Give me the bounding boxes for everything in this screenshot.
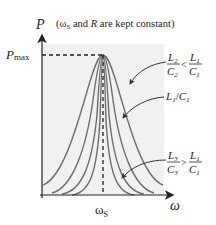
y-axis-label: P bbox=[35, 17, 45, 32]
svg-text:C1: C1 bbox=[189, 163, 200, 177]
pmax-label: Pmax bbox=[5, 47, 30, 62]
svg-text:<: < bbox=[181, 59, 187, 70]
svg-text:L2: L2 bbox=[167, 51, 178, 65]
x-axis-label: ω bbox=[170, 198, 180, 213]
svg-text:>: > bbox=[181, 157, 187, 168]
svg-text:C2: C2 bbox=[167, 65, 178, 79]
svg-text:L3: L3 bbox=[167, 149, 178, 163]
ws-label: ωS bbox=[95, 202, 108, 219]
svg-text:C3: C3 bbox=[167, 163, 178, 177]
resonance-diagram: P ω (ωS and R are kept constant) Pmax ωS… bbox=[0, 0, 216, 225]
svg-text:L1: L1 bbox=[189, 149, 200, 163]
svg-text:L1: L1 bbox=[189, 51, 200, 65]
constant-note: (ωS and R are kept constant) bbox=[56, 18, 175, 31]
svg-text:L1/C1: L1/C1 bbox=[165, 90, 190, 104]
svg-text:C1: C1 bbox=[189, 65, 200, 79]
